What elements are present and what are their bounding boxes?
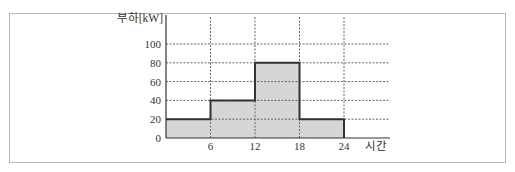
- x-tick-label: 18: [294, 140, 306, 152]
- y-tick-label: 40: [150, 94, 162, 106]
- y-tick-label: 60: [150, 76, 162, 88]
- y-tick-label: 80: [150, 57, 162, 69]
- x-axis-label: 시간: [365, 140, 387, 152]
- x-tick-label: 12: [250, 140, 261, 152]
- x-tick-label: 24: [339, 140, 351, 152]
- y-axis-label: 부하[kW]: [117, 11, 163, 24]
- load-step-chart: 0204060801006121824 부하[kW] 시간: [0, 0, 515, 172]
- y-tick-label: 100: [145, 38, 162, 50]
- load-segment-fill: [300, 119, 345, 138]
- x-tick-label: 6: [208, 140, 214, 152]
- y-tick-label: 20: [150, 113, 162, 125]
- y-tick-label: 0: [156, 132, 162, 144]
- load-segment-fill: [166, 119, 211, 138]
